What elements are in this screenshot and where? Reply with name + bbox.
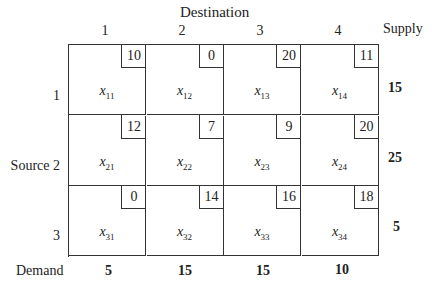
- cell-1-2: 0x12: [147, 45, 224, 115]
- column-header-3: 3: [250, 23, 270, 39]
- decision-variable: x14: [302, 83, 378, 101]
- cell-2-4: 20x24: [302, 116, 379, 186]
- cell-3-3: 16x33: [224, 186, 301, 256]
- decision-variable: x12: [147, 83, 223, 101]
- transportation-table: 10x110x1220x1311x1412x217x229x2320x240x3…: [68, 44, 379, 257]
- variable-subscript: 32: [183, 232, 192, 242]
- decision-variable: x23: [224, 154, 300, 172]
- row-label-3: 3: [40, 228, 60, 244]
- cost-box: 0: [121, 185, 146, 209]
- cell-1-3: 20x13: [224, 45, 301, 115]
- decision-variable: x22: [147, 154, 223, 172]
- column-header-1: 1: [95, 23, 115, 39]
- row-label-1: 1: [40, 88, 60, 104]
- supply-value-2: 25: [388, 150, 402, 166]
- cell-3-4: 18x34: [302, 186, 379, 256]
- cost-box: 0: [199, 44, 224, 68]
- demand-value-4: 10: [335, 262, 349, 278]
- cost-box: 16: [276, 185, 301, 209]
- demand-value-2: 15: [178, 263, 192, 279]
- cost-box: 20: [276, 44, 301, 68]
- decision-variable: x34: [302, 224, 378, 242]
- decision-variable: x32: [147, 224, 223, 242]
- supply-value-3: 5: [393, 219, 400, 235]
- cost-box: 9: [276, 115, 301, 139]
- variable-subscript: 33: [261, 232, 270, 242]
- cost-box: 7: [199, 115, 224, 139]
- supply-header: Supply: [383, 21, 423, 37]
- variable-subscript: 24: [338, 161, 347, 171]
- cost-box: 14: [199, 185, 224, 209]
- variable-subscript: 34: [338, 232, 347, 242]
- decision-variable: x24: [302, 154, 378, 172]
- demand-value-1: 5: [105, 263, 112, 279]
- cost-box: 10: [121, 44, 146, 68]
- variable-subscript: 12: [183, 91, 192, 101]
- cost-box: 18: [354, 185, 379, 209]
- decision-variable: x13: [224, 83, 300, 101]
- variable-subscript: 23: [261, 161, 270, 171]
- cell-2-3: 9x23: [224, 116, 301, 186]
- variable-subscript: 14: [338, 91, 347, 101]
- cell-3-1: 0x31: [69, 186, 146, 256]
- decision-variable: x31: [69, 224, 145, 242]
- cell-1-1: 10x11: [69, 45, 146, 115]
- supply-value-1: 15: [388, 80, 402, 96]
- cell-3-2: 14x32: [147, 186, 224, 256]
- decision-variable: x11: [69, 83, 145, 101]
- row-label-2: Source 2: [4, 158, 60, 174]
- variable-subscript: 22: [183, 161, 192, 171]
- cell-2-1: 12x21: [69, 116, 146, 186]
- cell-2-2: 7x22: [147, 116, 224, 186]
- decision-variable: x21: [69, 154, 145, 172]
- cost-box: 12: [121, 115, 146, 139]
- variable-subscript: 31: [106, 232, 115, 242]
- source-label: Source: [11, 158, 50, 173]
- column-header-4: 4: [328, 23, 348, 39]
- cost-box: 20: [354, 115, 379, 139]
- column-header-2: 2: [172, 23, 192, 39]
- cell-1-4: 11x14: [302, 45, 379, 115]
- decision-variable: x33: [224, 224, 300, 242]
- destination-title: Destination: [180, 4, 249, 21]
- cost-box: 11: [354, 44, 379, 68]
- variable-subscript: 11: [106, 91, 115, 101]
- demand-label: Demand: [16, 263, 63, 279]
- variable-subscript: 13: [261, 91, 270, 101]
- demand-value-3: 15: [256, 263, 270, 279]
- row-label-2-number: 2: [53, 158, 60, 173]
- variable-subscript: 21: [106, 161, 115, 171]
